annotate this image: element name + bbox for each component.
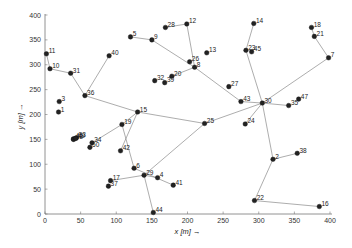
node-label: 22	[257, 194, 265, 201]
node-label: 32	[157, 74, 165, 81]
node-label: 3	[61, 95, 65, 102]
y-tick-label: 250	[29, 86, 41, 93]
node-label: 49	[78, 132, 86, 139]
node-label: 12	[189, 17, 197, 24]
node-13: 13	[204, 46, 216, 55]
node-label: 2	[275, 153, 279, 160]
node-31: 31	[68, 67, 80, 76]
node-label: 43	[243, 95, 251, 102]
node-label: 24	[247, 117, 255, 124]
edge-15-25	[138, 112, 205, 123]
node-19: 19	[120, 118, 132, 127]
y-tick-label: 150	[29, 136, 41, 143]
edge-6-41	[134, 168, 173, 185]
node-label: 44	[156, 206, 164, 213]
node-label: 16	[322, 200, 330, 207]
x-tick-label: 250	[217, 217, 229, 224]
node-9: 9	[150, 33, 159, 42]
node-6: 6	[132, 162, 141, 171]
node-47: 47	[296, 93, 308, 102]
x-tick-label: 50	[77, 217, 85, 224]
y-tick-label: 300	[29, 61, 41, 68]
network-scatter-chart: 050100150200250300350400 050100150200250…	[0, 0, 352, 248]
node-18: 18	[309, 21, 321, 30]
node-label: 10	[52, 62, 60, 69]
node-28: 28	[163, 21, 175, 30]
x-tick-label: 200	[182, 217, 194, 224]
edge-10-31	[50, 69, 71, 73]
node-label: 25	[207, 117, 215, 124]
edge-7-21	[314, 36, 328, 57]
edge-25-29	[144, 123, 205, 175]
node-label: 45	[254, 45, 262, 52]
node-label: 21	[317, 30, 325, 37]
node-21: 21	[312, 30, 324, 39]
y-tick-label: 200	[29, 111, 41, 118]
node-label: 7	[331, 51, 335, 58]
node-25: 25	[202, 117, 214, 126]
node-label: 42	[123, 144, 131, 151]
node-label: 31	[73, 67, 81, 74]
edge-30-7	[262, 58, 328, 103]
edges-layer	[46, 23, 328, 212]
node-label: 36	[87, 89, 95, 96]
x-tick-label: 350	[289, 217, 301, 224]
node-24: 24	[243, 117, 255, 126]
node-label: 28	[168, 21, 176, 28]
node-label: 14	[256, 17, 264, 24]
node-37: 37	[106, 180, 118, 189]
node-label: 40	[111, 49, 119, 56]
x-tick-label: 150	[146, 217, 158, 224]
node-label: 30	[265, 97, 273, 104]
nodes-layer: 1234567891011121314151617181920212223242…	[44, 17, 335, 215]
node-label: 41	[175, 179, 183, 186]
node-label: 6	[136, 162, 140, 169]
node-14: 14	[251, 17, 263, 26]
axes: 050100150200250300350400 050100150200250…	[16, 12, 336, 237]
node-label: 47	[301, 93, 309, 100]
edge-22-16	[254, 201, 319, 207]
node-label: 20	[174, 70, 182, 77]
node-16: 16	[317, 200, 329, 209]
node-label: 39	[167, 76, 175, 83]
node-label: 19	[124, 118, 132, 125]
node-4: 4	[155, 171, 164, 180]
node-label: 9	[154, 33, 158, 40]
node-label: 13	[209, 46, 217, 53]
node-1: 1	[56, 106, 65, 115]
node-44: 44	[151, 206, 163, 215]
node-label: 29	[146, 169, 154, 176]
node-label: 50	[92, 141, 100, 148]
node-label: 5	[133, 30, 137, 37]
x-tick-label: 0	[43, 217, 47, 224]
x-tick-label: 300	[253, 217, 265, 224]
node-label: 26	[192, 55, 200, 62]
edge-29-44	[144, 175, 153, 212]
node-50: 50	[88, 141, 100, 150]
node-label: 1	[61, 106, 65, 113]
node-27: 27	[227, 80, 239, 89]
node-38: 38	[295, 147, 307, 156]
x-ticks: 050100150200250300350400	[43, 212, 336, 225]
y-tick-label: 50	[33, 186, 41, 193]
node-label: 37	[111, 180, 119, 187]
node-42: 42	[118, 144, 130, 153]
y-tick-label: 0	[37, 211, 41, 218]
node-3: 3	[57, 95, 65, 104]
node-label: 27	[231, 80, 239, 87]
node-7: 7	[326, 51, 334, 60]
node-41: 41	[171, 179, 183, 188]
edge-30-2	[262, 103, 273, 159]
y-axis-label: y [m] →	[16, 104, 25, 131]
node-label: 38	[299, 147, 307, 154]
x-tick-label: 100	[110, 217, 122, 224]
node-12: 12	[184, 17, 196, 26]
y-tick-label: 100	[29, 161, 41, 168]
y-tick-label: 400	[29, 12, 41, 19]
node-label: 4	[160, 171, 164, 178]
node-label: 11	[49, 47, 56, 54]
edge-36-15	[85, 96, 138, 112]
node-label: 18	[314, 21, 322, 28]
edge-31-36	[71, 73, 85, 95]
x-axis-label: x [m] →	[174, 227, 201, 236]
